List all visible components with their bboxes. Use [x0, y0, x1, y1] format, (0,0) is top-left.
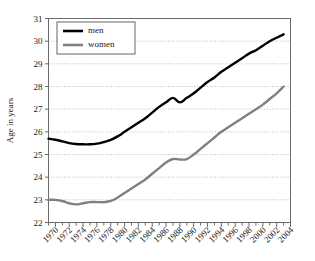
y-tick-label-28: 28	[34, 82, 44, 92]
y-tick-label-25: 25	[34, 150, 44, 160]
y-tick-label-23: 23	[34, 195, 44, 205]
y-tick-label-26: 26	[34, 127, 44, 137]
line-chart: 22232425262728293031 1970197219741976197…	[0, 0, 315, 261]
y-tick-label-27: 27	[34, 104, 44, 114]
chart-canvas: 22232425262728293031 1970197219741976197…	[0, 0, 315, 261]
y-axis-title-group: Age in years	[5, 97, 15, 143]
legend-label-women: women	[88, 39, 115, 49]
y-tick-label-29: 29	[34, 59, 44, 69]
y-tick-label-24: 24	[34, 172, 44, 182]
y-tick-label-22: 22	[34, 218, 43, 228]
legend-label-men: men	[88, 25, 104, 35]
y-tick-label-30: 30	[34, 36, 44, 46]
chart-legend: menwomen	[57, 22, 135, 54]
chart-background	[0, 0, 315, 261]
y-axis-title: Age in years	[5, 97, 15, 143]
y-tick-label-31: 31	[34, 14, 43, 24]
